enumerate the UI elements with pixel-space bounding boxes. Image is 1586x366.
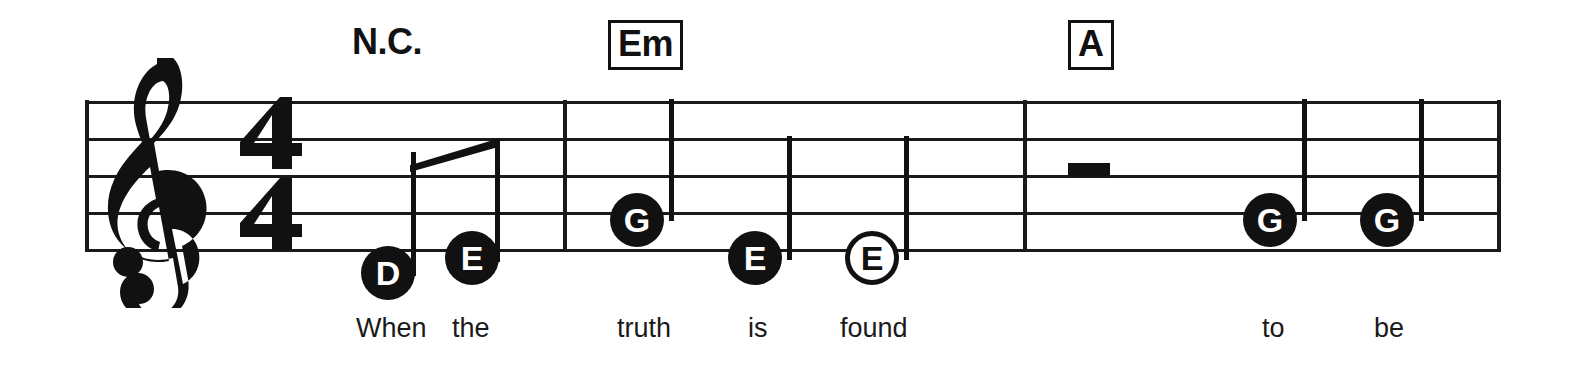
note-d[interactable]: D	[361, 246, 415, 300]
note-e-2[interactable]: E	[728, 231, 782, 285]
lyric-is: is	[748, 313, 768, 343]
chord-symbol-a[interactable]: A	[1068, 20, 1114, 70]
lyric-when: When	[356, 313, 427, 343]
treble-clef-icon	[100, 58, 210, 308]
time-signature-4-4	[238, 95, 318, 260]
note-stem-e3	[904, 136, 909, 260]
lyric-be: be	[1374, 313, 1404, 343]
note-stem-g1	[669, 99, 674, 221]
note-g-1[interactable]: G	[610, 193, 664, 247]
note-g-2[interactable]: G	[1243, 193, 1297, 247]
barline-measure-2-end	[1023, 100, 1027, 252]
chord-symbol-em[interactable]: Em	[608, 20, 683, 70]
chord-symbol-nc[interactable]: N.C.	[352, 22, 422, 62]
lyric-to: to	[1262, 313, 1285, 343]
beam-d-e	[410, 138, 500, 172]
barline-measure-1-end	[563, 100, 567, 252]
lyric-truth: truth	[617, 313, 671, 343]
note-stem-g3	[1419, 99, 1424, 221]
note-stem-e1	[495, 140, 500, 262]
barline-end	[1497, 100, 1501, 252]
note-stem-e2	[787, 136, 792, 260]
note-g-3[interactable]: G	[1360, 193, 1414, 247]
note-e-1[interactable]: E	[445, 231, 499, 285]
barline-start	[85, 100, 89, 252]
lyric-the: the	[452, 313, 490, 343]
lead-sheet-staff-system: N.C. Em A D E G E E G G When the truth i…	[0, 0, 1586, 366]
lyric-found: found	[840, 313, 908, 343]
note-e-3[interactable]: E	[845, 231, 899, 285]
half-rest	[1068, 163, 1110, 177]
note-stem-g2	[1302, 99, 1307, 221]
